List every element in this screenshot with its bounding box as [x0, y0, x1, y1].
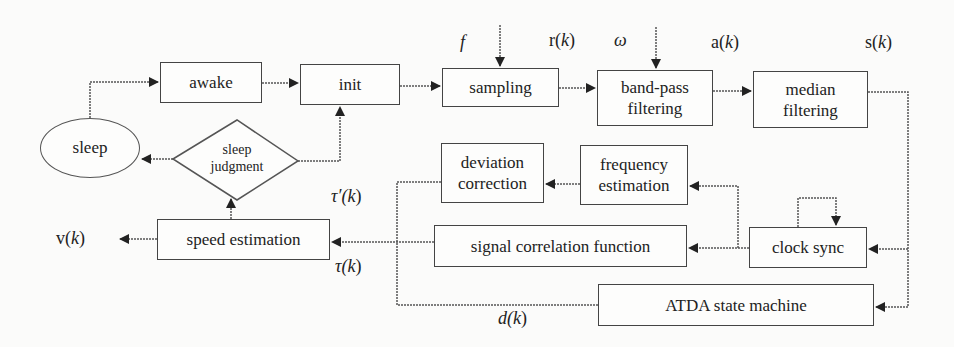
sleep-judgment-text: sleep judgment: [197, 141, 277, 175]
omega-label: ω: [614, 30, 627, 51]
clock-sync-node: clock sync: [749, 227, 867, 268]
sleep-label: sleep: [73, 138, 108, 158]
awake-label: awake: [189, 72, 232, 93]
sleep-node: sleep: [40, 118, 140, 178]
frequency-label-line1: frequency: [600, 154, 668, 175]
init-label: init: [339, 74, 362, 95]
awake-node: awake: [160, 62, 262, 103]
r-prefix: r(: [549, 30, 561, 50]
init-node: init: [300, 64, 400, 105]
signal-correlation-label: signal correlation function: [471, 236, 650, 257]
sampling-node: sampling: [442, 68, 559, 107]
k-var: k: [725, 32, 733, 52]
frequency-estimation-node: frequency estimation: [580, 145, 688, 205]
s-prefix: s(: [865, 32, 878, 52]
paren-close: ): [521, 308, 527, 328]
atda-state-machine-node: ATDA state machine: [598, 284, 874, 326]
paren-close: ): [569, 30, 575, 50]
band-pass-label-line1: band-pass: [621, 77, 689, 98]
tau-prefix: τ(: [335, 256, 347, 276]
paren-close: ): [733, 32, 739, 52]
k-var: k: [71, 228, 79, 248]
median-filtering-node: median filtering: [753, 71, 868, 128]
speed-estimation-label: speed estimation: [187, 229, 301, 250]
k-var: k: [513, 308, 521, 328]
frequency-label-line2: estimation: [599, 175, 670, 196]
atda-label: ATDA state machine: [665, 295, 807, 316]
median-label-line2: filtering: [783, 100, 838, 121]
s-k-label: s(k): [865, 32, 892, 53]
paren-close: ): [355, 256, 361, 276]
paren-close: ): [355, 186, 361, 206]
clock-sync-label: clock sync: [772, 237, 844, 258]
deviation-label-line2: correction: [458, 173, 527, 194]
tau-prime-k-label: τ′(k): [331, 186, 361, 207]
sleep-judgment-line1: sleep: [197, 141, 277, 158]
median-label-line1: median: [785, 79, 835, 100]
f-label: f: [460, 32, 465, 53]
tau-k-label: τ(k): [335, 256, 361, 277]
d-k-label: d(k): [498, 308, 527, 329]
signal-correlation-node: signal correlation function: [434, 225, 687, 267]
a-prefix: a(: [711, 32, 725, 52]
d-prefix: d(: [498, 308, 513, 328]
band-pass-label-line2: filtering: [628, 98, 683, 119]
deviation-correction-node: deviation correction: [441, 143, 544, 203]
sleep-judgment-line2: judgment: [197, 158, 277, 175]
paren-close: ): [79, 228, 85, 248]
k-var: k: [878, 32, 886, 52]
speed-estimation-node: speed estimation: [157, 219, 330, 260]
paren-close: ): [886, 32, 892, 52]
k-var: k: [561, 30, 569, 50]
a-k-label: a(k): [711, 32, 739, 53]
deviation-label-line1: deviation: [461, 152, 524, 173]
sampling-label: sampling: [469, 77, 531, 98]
band-pass-filtering-node: band-pass filtering: [597, 70, 713, 126]
tau-prime-prefix: τ′(: [331, 186, 347, 206]
r-k-label: r(k): [549, 30, 575, 51]
v-prefix: v(: [56, 228, 71, 248]
v-k-label: v(k): [56, 228, 85, 249]
